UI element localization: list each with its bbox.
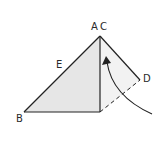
fold-diagram: A C E B D — [0, 0, 167, 149]
label-d: D — [143, 74, 151, 84]
label-a: A — [91, 22, 98, 32]
label-e: E — [56, 60, 62, 70]
label-b: B — [16, 114, 23, 124]
label-c: C — [100, 22, 107, 32]
diagram-graphic — [0, 0, 167, 149]
